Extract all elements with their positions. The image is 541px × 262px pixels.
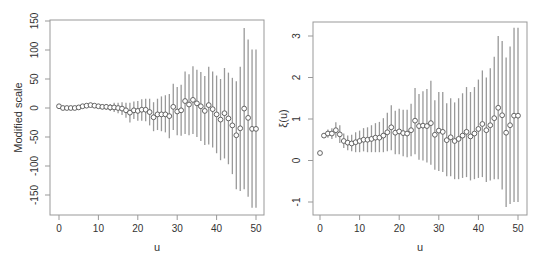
y-tick-label: 1 bbox=[291, 116, 302, 122]
data-point bbox=[171, 104, 176, 109]
data-point bbox=[238, 126, 243, 131]
data-point bbox=[484, 128, 489, 133]
panel-shape-xi: 01020304050-10123uξ(u) bbox=[277, 22, 527, 253]
data-point bbox=[476, 127, 481, 132]
data-point bbox=[480, 122, 485, 127]
x-axis-label: u bbox=[417, 241, 423, 253]
y-tick-label: 3 bbox=[291, 33, 302, 39]
data-point bbox=[385, 130, 390, 135]
data-point bbox=[226, 116, 231, 121]
y-tick-label: 2 bbox=[291, 74, 302, 80]
panel-modified-scale: 01020304050-150-100-50050100150uModified… bbox=[12, 12, 264, 253]
x-tick-label: 10 bbox=[354, 223, 366, 234]
x-tick-label: 40 bbox=[211, 223, 223, 234]
data-point bbox=[440, 129, 445, 134]
y-tick-label: 150 bbox=[29, 12, 40, 29]
data-point bbox=[428, 121, 433, 126]
data-point bbox=[254, 126, 259, 131]
data-point bbox=[214, 112, 219, 117]
data-point bbox=[492, 116, 497, 121]
data-point bbox=[496, 105, 501, 110]
data-point bbox=[432, 132, 437, 137]
data-point bbox=[500, 113, 505, 118]
x-axis-label: u bbox=[154, 241, 160, 253]
data-point bbox=[460, 133, 465, 138]
x-tick-label: 10 bbox=[93, 223, 105, 234]
data-point bbox=[333, 128, 338, 133]
x-tick-label: 30 bbox=[433, 223, 445, 234]
x-tick-label: 50 bbox=[250, 223, 262, 234]
data-point bbox=[191, 97, 196, 102]
data-point bbox=[246, 115, 251, 120]
data-point bbox=[187, 102, 192, 107]
data-point bbox=[147, 110, 152, 115]
chart-canvas: 01020304050-150-100-50050100150uModified… bbox=[0, 0, 541, 262]
data-point bbox=[413, 118, 418, 123]
y-tick-label: 50 bbox=[29, 73, 40, 85]
data-point bbox=[504, 130, 509, 135]
data-point bbox=[337, 132, 342, 137]
data-point bbox=[472, 131, 477, 136]
data-point bbox=[409, 128, 414, 133]
x-tick-label: 0 bbox=[317, 223, 323, 234]
data-point bbox=[516, 113, 521, 118]
x-tick-label: 0 bbox=[56, 223, 62, 234]
data-point bbox=[508, 123, 513, 128]
data-point bbox=[206, 103, 211, 108]
data-point bbox=[218, 117, 223, 122]
data-point bbox=[242, 106, 247, 111]
data-point bbox=[183, 99, 188, 104]
x-tick-label: 20 bbox=[132, 223, 144, 234]
x-tick-label: 40 bbox=[473, 223, 485, 234]
data-point bbox=[464, 129, 469, 134]
x-tick-label: 20 bbox=[394, 223, 406, 234]
data-point bbox=[448, 135, 453, 140]
y-tick-label: 0 bbox=[291, 157, 302, 163]
x-tick-label: 50 bbox=[512, 223, 524, 234]
y-tick-label: -150 bbox=[29, 185, 40, 205]
data-point bbox=[222, 111, 227, 116]
y-tick-label: -50 bbox=[29, 129, 40, 144]
y-axis-label: Modified scale bbox=[12, 82, 24, 152]
data-point bbox=[234, 133, 239, 138]
data-point bbox=[179, 108, 184, 113]
y-tick-label: -1 bbox=[291, 197, 302, 206]
y-tick-label: 0 bbox=[29, 105, 40, 111]
data-point bbox=[202, 109, 207, 114]
data-point bbox=[167, 114, 172, 119]
data-point bbox=[198, 104, 203, 109]
y-tick-label: 100 bbox=[29, 41, 40, 58]
figure: 01020304050-150-100-50050100150uModified… bbox=[0, 0, 541, 262]
data-point bbox=[389, 125, 394, 130]
y-axis-label: ξ(u) bbox=[277, 109, 289, 127]
x-tick-label: 30 bbox=[172, 223, 184, 234]
data-point bbox=[488, 123, 493, 128]
data-point bbox=[230, 123, 235, 128]
data-point bbox=[210, 107, 215, 112]
y-tick-label: -100 bbox=[29, 156, 40, 176]
data-point bbox=[318, 151, 323, 156]
